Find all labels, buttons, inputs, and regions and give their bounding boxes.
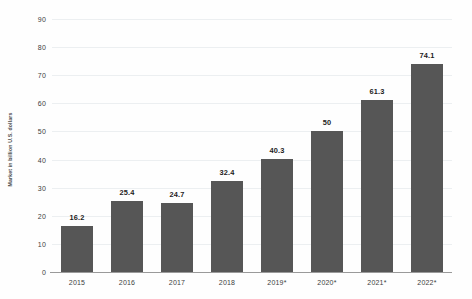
bar-value-label: 25.4 [120, 188, 135, 197]
y-axis-tick-label: 10 [6, 240, 46, 247]
y-axis-tick-label: 0 [6, 269, 46, 276]
y-axis-tick-label: 60 [6, 100, 46, 107]
bar-group[interactable]: 24.7 [161, 19, 193, 272]
y-axis-tick-label: 20 [6, 212, 46, 219]
x-axis-tick-label: 2022* [397, 279, 457, 286]
bar-value-label: 32.4 [220, 168, 235, 177]
bar[interactable] [261, 159, 293, 272]
bar[interactable] [111, 201, 143, 272]
bar[interactable] [361, 100, 393, 272]
bar-value-label: 61.3 [370, 87, 385, 96]
bar-group[interactable]: 16.2 [61, 19, 93, 272]
bar[interactable] [311, 131, 343, 272]
bar-chart: Market in billion U.S. dollars 010203040… [0, 0, 472, 299]
bar-group[interactable]: 25.4 [111, 19, 143, 272]
y-axis-tick-label: 80 [6, 44, 46, 51]
bar-value-label: 24.7 [170, 190, 185, 199]
bar[interactable] [411, 64, 443, 272]
bar-group[interactable]: 32.4 [211, 19, 243, 272]
plot-area: 16.225.424.732.440.35061.374.1 [52, 19, 452, 272]
y-axis-tick-labels: 0102030405060708090 [0, 0, 46, 299]
y-axis-tick-label: 50 [6, 128, 46, 135]
x-axis-line [50, 272, 452, 273]
bar[interactable] [61, 226, 93, 272]
y-axis-tick-label: 90 [6, 16, 46, 23]
bar-group[interactable]: 40.3 [261, 19, 293, 272]
bar-value-label: 74.1 [420, 51, 435, 60]
y-axis-tick-label: 30 [6, 184, 46, 191]
bar-value-label: 50 [323, 118, 331, 127]
bar-group[interactable]: 61.3 [361, 19, 393, 272]
bar[interactable] [161, 203, 193, 272]
bar[interactable] [211, 181, 243, 272]
bar-group[interactable]: 74.1 [411, 19, 443, 272]
y-axis-tick-label: 40 [6, 156, 46, 163]
bar-group[interactable]: 50 [311, 19, 343, 272]
y-axis-tick-label: 70 [6, 72, 46, 79]
bar-value-label: 40.3 [270, 146, 285, 155]
bar-value-label: 16.2 [70, 213, 85, 222]
